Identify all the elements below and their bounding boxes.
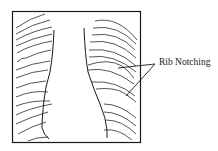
chest-radiograph-diagram bbox=[0, 0, 218, 151]
left-ribs bbox=[16, 14, 52, 141]
rib-notching-label: Rib Notching bbox=[159, 57, 210, 67]
right-mediastinal-border bbox=[84, 28, 107, 138]
annotation-arrows bbox=[118, 64, 155, 96]
frame-border bbox=[13, 12, 141, 143]
right-ribs bbox=[88, 20, 137, 140]
